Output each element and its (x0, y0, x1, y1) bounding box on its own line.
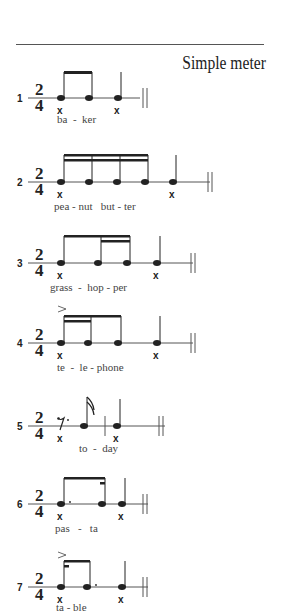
svg-text:4: 4 (17, 338, 23, 349)
svg-text:4: 4 (35, 96, 44, 115)
svg-text:x: x (169, 189, 175, 200)
rhythm-staff: 5 2 4 x x (0, 378, 282, 438)
rhythm-staff: 3 2 4 x x (0, 215, 282, 275)
lyrics: ta - ble (56, 601, 87, 613)
example-2: 2 2 4 x x pea - nut but - ter (0, 134, 282, 194)
lyrics: pea - nut but - ter (54, 200, 136, 212)
example-4: 4 2 4 x x te - le - phone (0, 295, 282, 355)
lyrics: to - day (79, 442, 118, 454)
svg-text:5: 5 (17, 421, 23, 432)
svg-text:4: 4 (35, 424, 44, 443)
example-7: 7 2 4 x x ta - ble (0, 539, 282, 599)
svg-text:4: 4 (35, 502, 44, 521)
svg-text:4: 4 (35, 341, 44, 360)
svg-text:x: x (153, 270, 159, 281)
svg-text:x: x (57, 189, 63, 200)
rhythm-staff: 1 2 4 x x (0, 50, 282, 110)
svg-text:4: 4 (35, 261, 44, 280)
svg-text:3: 3 (17, 258, 23, 269)
rhythm-staff: 6 2 4 x x (0, 456, 282, 516)
svg-text:x: x (57, 270, 63, 281)
rhythm-staff: 7 2 4 x x (0, 539, 282, 599)
svg-text:2: 2 (17, 177, 23, 188)
rhythm-staff: 4 2 4 x x (0, 295, 282, 355)
svg-text:x: x (57, 350, 63, 361)
svg-text:6: 6 (17, 499, 23, 510)
example-6: 6 2 4 x x pas - ta (0, 456, 282, 516)
top-rule (16, 44, 264, 45)
svg-text:x: x (57, 511, 63, 522)
example-3: 3 2 4 x x grass - hop - per (0, 215, 282, 275)
rest-icon (58, 418, 64, 430)
svg-text:x: x (118, 511, 124, 522)
svg-text:x: x (118, 594, 124, 605)
svg-text:x: x (153, 350, 159, 361)
lyrics: pas - ta (55, 522, 98, 534)
example-number: 1 (17, 93, 23, 104)
svg-text:x: x (57, 433, 63, 444)
lyrics: grass - hop - per (50, 281, 127, 293)
rhythm-staff: 2 2 4 x x (0, 134, 282, 194)
svg-text:4: 4 (35, 180, 44, 199)
accent-icon (58, 306, 66, 312)
svg-text:7: 7 (17, 582, 23, 593)
svg-text:4: 4 (35, 585, 44, 604)
lyrics: ba - ker (57, 113, 96, 125)
example-1: 1 2 4 x x ba - ker (0, 50, 282, 110)
accent-icon (58, 552, 66, 558)
beat-mark: x (114, 105, 120, 116)
example-5: 5 2 4 x x to - day (0, 378, 282, 438)
lyrics: te - le - phone (57, 361, 124, 373)
